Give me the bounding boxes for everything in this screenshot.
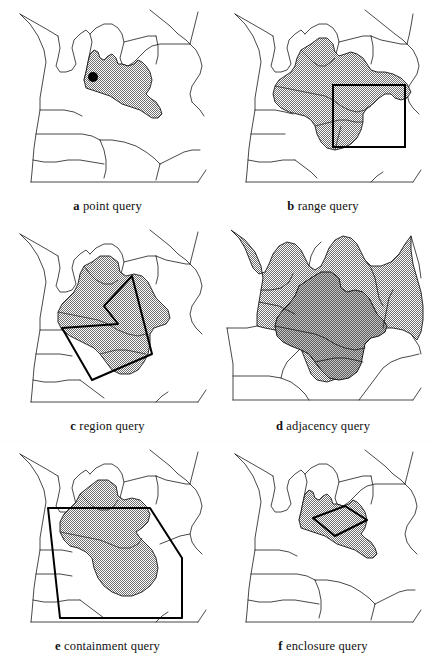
map-e: [0, 440, 215, 636]
map-b: [215, 0, 431, 196]
caption-d-label: d: [276, 419, 283, 433]
panel-c-region-query: c region query: [0, 220, 215, 440]
map-d: [215, 220, 431, 416]
map-d-svg: [215, 220, 431, 416]
caption-d-text: adjacency query: [286, 419, 370, 433]
caption-c: c region query: [0, 420, 215, 433]
caption-e: e containment query: [0, 640, 215, 653]
map-a-svg: [0, 0, 215, 196]
map-a: [0, 0, 215, 196]
shaded-region-a: [84, 50, 162, 118]
panel-e-containment-query: e containment query: [0, 440, 215, 660]
caption-a: a point query: [0, 200, 215, 213]
panel-d-adjacency-query: d adjacency query: [215, 220, 431, 440]
map-f: [215, 440, 431, 636]
shaded-region-c: [58, 256, 170, 374]
map-c-svg: [0, 220, 215, 416]
caption-e-text: containment query: [64, 639, 160, 653]
panel-f-enclosure-query: f enclosure query: [215, 440, 431, 660]
caption-f-text: enclosure query: [286, 639, 368, 653]
caption-b: b range query: [215, 200, 431, 213]
map-b-svg: [215, 0, 431, 196]
map-c: [0, 220, 215, 416]
panel-b-range-query: b range query: [215, 0, 431, 220]
map-e-svg: [0, 440, 215, 636]
shaded-region-f: [299, 490, 377, 558]
caption-d: d adjacency query: [215, 420, 431, 433]
shaded-region-b: [273, 38, 411, 150]
figure-spatial-queries: a point query: [0, 0, 431, 660]
caption-a-text: point query: [83, 199, 142, 213]
panel-a-point-query: a point query: [0, 0, 215, 220]
caption-b-text: range query: [298, 199, 359, 213]
query-point-marker: [88, 72, 98, 82]
caption-c-text: region query: [79, 419, 144, 433]
map-f-svg: [215, 440, 431, 636]
caption-f: f enclosure query: [215, 640, 431, 653]
